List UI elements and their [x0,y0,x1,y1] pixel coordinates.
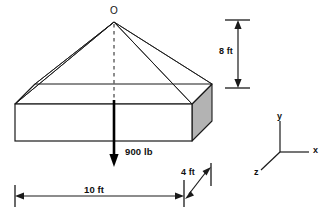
pyramid-edge-rear-right [114,22,212,84]
axis-z-label: z [254,168,259,177]
axis-z-line [261,152,280,170]
box-front-face [15,104,192,141]
load-label: 900 lb [125,147,153,157]
axis-x-label: x [313,146,318,155]
height-dimension-label: 8 ft [219,47,233,56]
axis-y-label: y [277,112,282,121]
apex-label: O [110,6,118,16]
coordinate-axes-triad [261,121,309,170]
length-dimension-label: 10 ft [84,185,104,195]
depth-dimension-label: 4 ft [181,168,195,177]
